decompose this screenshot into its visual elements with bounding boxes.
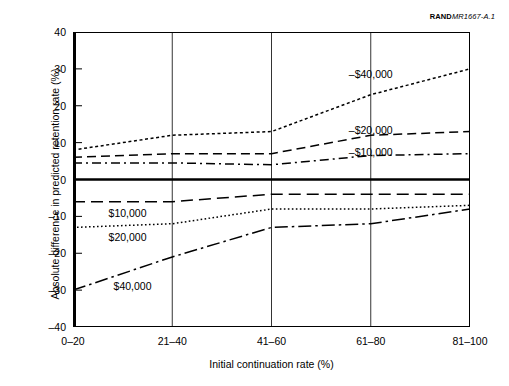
y-tick-label: –10 [48,210,66,222]
source-note-id: MR1667-A.1 [452,12,495,21]
y-tick-label: –30 [48,284,66,296]
series-label-5: $40,000 [114,280,152,292]
x-tick-label: 0–20 [61,335,84,347]
series-label-4: $20,000 [109,231,147,243]
source-note-brand: RAND [430,12,452,21]
series-label-1: –$20,000 [349,124,393,136]
source-note: RANDMR1667-A.1 [430,12,495,21]
series-label-3: $10,000 [109,207,147,219]
y-tick-label: 0 [60,174,66,186]
x-tick-label: 61–80 [356,335,385,347]
y-tick-label: 30 [54,63,66,75]
x-tick-label: 21–40 [158,335,187,347]
x-axis-label: Initial continuation rate (%) [73,358,470,370]
series-label-0: –$40,000 [349,68,393,80]
y-tick-label: –40 [48,321,66,333]
y-tick-label: 10 [54,137,66,149]
y-tick-label: –20 [48,247,66,259]
y-tick-label: 20 [54,100,66,112]
x-tick-label: 81–100 [452,335,487,347]
x-tick-label: 41–60 [257,335,286,347]
y-tick-label: 40 [54,26,66,38]
figure-root: RANDMR1667-A.1 Absolute difference in pr… [0,0,509,386]
plot-area: 403020100–10–20–30–400–2021–4041–6061–80… [73,32,470,327]
series-label-2: –$10,000 [349,146,393,158]
